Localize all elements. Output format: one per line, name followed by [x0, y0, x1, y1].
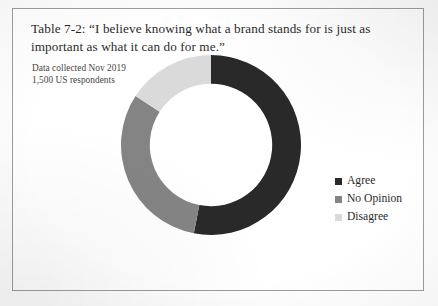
donut-chart	[119, 53, 303, 237]
figure-frame: Table 7-2: “I believe knowing what a bra…	[12, 8, 424, 291]
legend-swatch-icon	[335, 214, 342, 221]
legend-item-label: Disagree	[347, 211, 388, 223]
legend-item-disagree: Disagree	[335, 208, 421, 226]
donut-chart-svg	[119, 53, 303, 237]
donut-slice-group	[121, 55, 301, 235]
legend-item-agree: Agree	[335, 172, 421, 190]
legend-item-no-opinion: No Opinion	[335, 190, 421, 208]
legend-item-label: Agree	[347, 175, 375, 187]
donut-slice-no-opinion	[121, 96, 199, 233]
legend-swatch-icon	[335, 196, 342, 203]
scanned-page: Table 7-2: “I believe knowing what a bra…	[0, 0, 438, 306]
legend-item-label: No Opinion	[347, 193, 402, 205]
chart-area	[13, 9, 425, 292]
chart-legend: AgreeNo OpinionDisagree	[335, 172, 421, 226]
legend-swatch-icon	[335, 178, 342, 185]
donut-slice-disagree	[136, 55, 211, 112]
